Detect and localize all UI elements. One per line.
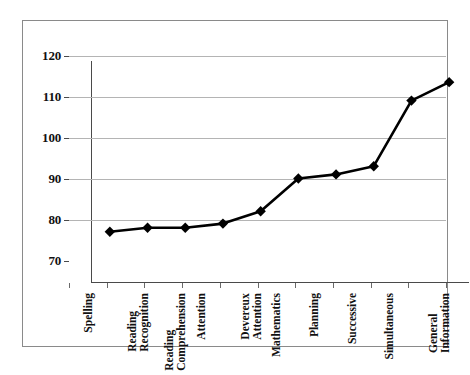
data-point-marker: [218, 218, 228, 228]
data-point-marker: [369, 161, 379, 171]
data-point-marker: [142, 223, 152, 233]
data-series-line: [23, 21, 470, 375]
data-point-marker: [180, 223, 190, 233]
data-point-marker: [444, 77, 454, 87]
chart-frame: 708090100110120 SpellingReadingRecogniti…: [22, 20, 448, 347]
data-point-marker: [406, 95, 416, 105]
data-point-marker: [331, 169, 341, 179]
data-point-marker: [105, 227, 115, 237]
data-point-markers: [105, 77, 455, 237]
